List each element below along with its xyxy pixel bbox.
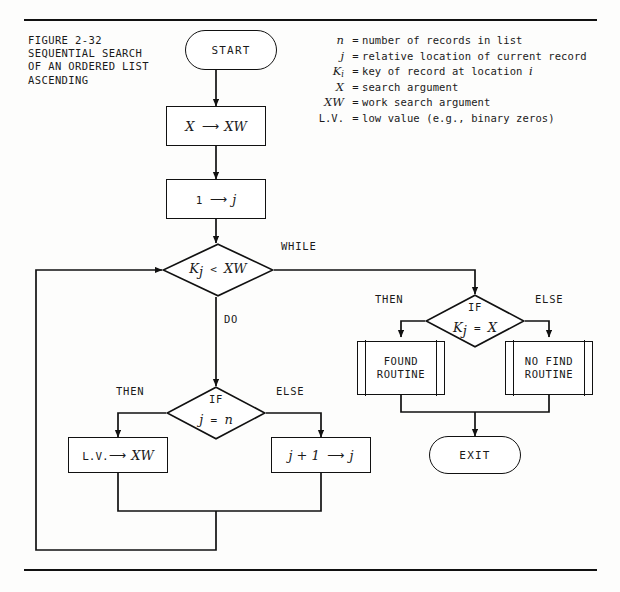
node-start-label: START	[211, 44, 250, 57]
legend-symbol: j	[300, 49, 349, 65]
legend-item: Ki = key of record at location i	[300, 64, 587, 80]
legend-description: relative location of current record	[362, 49, 587, 65]
figure-caption: FIGURE 2-32 SEQUENTIAL SEARCH OF AN ORDE…	[28, 34, 149, 87]
legend-symbol: L.V.	[300, 111, 349, 127]
edge-foundif-else-to-nofind	[525, 321, 549, 337]
node-no-find-routine-label: NO FINDROUTINE	[525, 355, 573, 381]
legend-description: number of records in list	[362, 33, 523, 49]
node-no-find-routine: NO FINDROUTINE	[505, 341, 593, 395]
edge-innerif-then-to-lv	[118, 413, 166, 437]
figure-page: FIGURE 2-32 SEQUENTIAL SEARCH OF AN ORDE…	[0, 0, 620, 592]
node-found-routine-label: FOUNDROUTINE	[377, 355, 425, 381]
node-increment-j-expr: j + 1 ⟶ j	[288, 448, 353, 463]
edge-lv-to-joinbus	[118, 473, 216, 511]
node-set-xw: X ⟶ XW	[166, 106, 266, 146]
node-start: START	[185, 30, 277, 70]
inner-if-diamond-shape	[166, 386, 266, 440]
legend-symbol: X	[300, 80, 349, 96]
node-found-routine: FOUNDROUTINE	[357, 341, 445, 395]
edge-found-to-exitbus	[401, 395, 475, 412]
legend-item: L.V. = low value (e.g., binary zeros)	[300, 111, 587, 127]
label-do: DO	[224, 313, 238, 325]
node-found-if-decision: IF Kj = X	[425, 294, 525, 348]
node-while-decision: Kj < XW	[162, 243, 274, 297]
legend-item: n = number of records in list	[300, 33, 587, 49]
label-while: WHILE	[281, 240, 317, 252]
node-set-xw-expr: X ⟶ XW	[185, 119, 247, 134]
top-divider-rule	[24, 19, 597, 21]
legend-description: key of record at location i	[362, 64, 533, 80]
legend-description: search argument	[362, 80, 458, 96]
legend-equals: =	[349, 64, 362, 80]
node-lv-to-xw-expr: L.V.⟶ XW	[82, 448, 154, 463]
node-set-j: 1 ⟶ j	[166, 179, 266, 219]
while-diamond-shape	[162, 243, 274, 297]
label-else-inner: ELSE	[276, 385, 305, 397]
legend: n = number of records in list j = relati…	[300, 33, 587, 127]
legend-symbol: XW	[300, 95, 349, 111]
node-lv-to-xw: L.V.⟶ XW	[68, 437, 168, 473]
label-else-found: ELSE	[535, 293, 564, 305]
node-increment-j: j + 1 ⟶ j	[271, 437, 371, 473]
legend-equals: =	[349, 95, 362, 111]
label-then-inner: THEN	[116, 385, 145, 397]
edge-incr-to-joinbus	[216, 473, 321, 511]
label-then-found: THEN	[375, 293, 404, 305]
legend-description: low value (e.g., binary zeros)	[362, 111, 555, 127]
edge-foundif-then-to-found	[401, 321, 425, 337]
node-exit-label: EXIT	[459, 449, 490, 462]
bottom-divider-rule	[24, 569, 597, 571]
edge-while-exit-to-foundif	[274, 270, 475, 294]
legend-equals: =	[349, 49, 362, 65]
legend-equals: =	[349, 111, 362, 127]
node-inner-if-decision: IF j = n	[166, 386, 266, 440]
legend-item: X = search argument	[300, 80, 587, 96]
legend-equals: =	[349, 80, 362, 96]
node-exit: EXIT	[429, 436, 521, 474]
node-set-j-expr: 1 ⟶ j	[196, 192, 236, 207]
edge-innerif-else-to-incr	[266, 413, 321, 437]
found-if-diamond-shape	[425, 294, 525, 348]
legend-equals: =	[349, 33, 362, 49]
legend-item: XW = work search argument	[300, 95, 587, 111]
legend-description: work search argument	[362, 95, 490, 111]
legend-symbol: n	[300, 33, 349, 49]
legend-item: j = relative location of current record	[300, 49, 587, 65]
edge-nofind-to-exitbus	[475, 395, 549, 412]
